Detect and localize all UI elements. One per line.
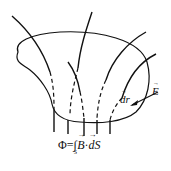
hidden-field-lines [50,68,122,120]
dr-label: dr [120,93,131,105]
ds-vector: dS [89,138,101,153]
dr-vector-arrow-icon: → [121,88,127,94]
formula-lhs: Φ= [58,138,74,152]
flux-formula: Φ=∫SB·dS [58,138,101,155]
field-lines [12,12,156,98]
b-vector: B [77,138,84,153]
e-label: E [151,85,159,97]
e-vector-arrow-icon: → [153,80,159,86]
